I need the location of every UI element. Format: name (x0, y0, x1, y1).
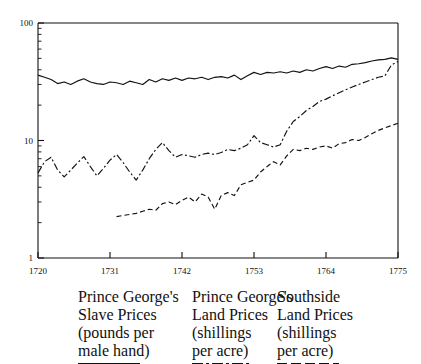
y-tick-label: 1 (29, 253, 34, 263)
x-tick-label: 1742 (173, 266, 191, 276)
legend-label-line1: Southside (277, 288, 353, 306)
legend-label-line3: (pounds per (78, 324, 179, 342)
legend-label-line4: male hand) (78, 342, 179, 360)
legend-label-line2: Land Prices (277, 306, 353, 324)
x-tick-label: 1764 (317, 266, 336, 276)
legend-item-slave-prices: Prince George's Slave Prices (pounds per… (78, 288, 179, 364)
y-tick-label: 100 (20, 18, 34, 28)
y-tick-label: 10 (24, 136, 34, 146)
x-tick-label: 1775 (389, 266, 408, 276)
legend-label-line4: per acre) (277, 342, 353, 360)
x-tick-label: 1753 (245, 266, 264, 276)
x-tick-label: 1720 (29, 266, 48, 276)
legend-item-southside-land-prices: Southside Land Prices (shillings per acr… (277, 288, 353, 364)
x-tick-label: 1731 (101, 266, 119, 276)
legend-label-line2: Slave Prices (78, 306, 179, 324)
legend-label-line3: (shillings (277, 324, 353, 342)
legend-label-line1: Prince George's (78, 288, 179, 306)
